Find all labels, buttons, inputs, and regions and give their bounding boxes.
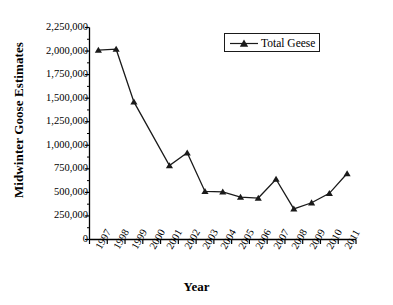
x-tick-label: 2010 [325,227,344,250]
x-tick-label: 2008 [290,227,309,250]
legend: Total Geese [224,33,320,52]
chart-figure: Midwinter Goose Estimates 0250,000500,00… [0,0,393,305]
x-tick-label: 1999 [130,227,149,250]
x-tick-label: 1998 [112,227,131,250]
x-tick-label: 2009 [308,227,327,250]
x-tick-label: 2000 [148,227,167,250]
x-tick-label: 2005 [237,227,256,250]
x-axis-title: Year [0,279,393,295]
x-tick-label: 2004 [219,227,238,250]
x-axis-tick-labels: 1997199819992000200120022003200420052006… [0,0,393,305]
x-tick-label: 2011 [343,228,362,251]
x-tick-label: 2001 [165,227,184,250]
legend-marker-icon [230,39,258,48]
x-tick-label: 1997 [94,227,113,250]
x-tick-label: 2002 [183,227,202,250]
x-tick-label: 2003 [201,227,220,250]
x-tick-label: 2007 [272,227,291,250]
legend-label-total-geese: Total Geese [261,37,315,49]
x-tick-label: 2006 [254,227,273,250]
